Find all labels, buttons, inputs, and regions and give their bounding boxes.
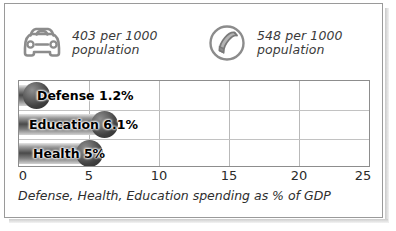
- bar-label-education: Education 6.1%: [29, 115, 138, 134]
- telephone-handset-icon: [203, 20, 251, 66]
- spending-bar-chart: Defense 1.2% Education 6.1% Health 5% 0 …: [18, 80, 370, 213]
- statistics-row: 403 per 1000 population 548 per 1000 pop…: [5, 14, 382, 72]
- table-row: Education 6.1%: [19, 110, 369, 139]
- stat-value-vehicles: 403 per 1000 population: [72, 29, 158, 57]
- stat-item-telephones: 548 per 1000 population: [200, 14, 382, 72]
- x-tick-25: 25: [355, 168, 372, 183]
- stat-value-telephones: 548 per 1000 population: [257, 29, 343, 57]
- x-axis: 0 5 10 15 20 25: [18, 168, 370, 186]
- table-row: Defense 1.2%: [19, 81, 369, 110]
- car-icon: [18, 20, 66, 66]
- x-tick-20: 20: [291, 168, 308, 183]
- x-tick-15: 15: [221, 168, 238, 183]
- bar-label-defense: Defense 1.2%: [37, 86, 134, 105]
- x-tick-0: 0: [19, 168, 27, 183]
- stat-item-vehicles: 403 per 1000 population: [5, 14, 200, 72]
- info-card: 403 per 1000 population 548 per 1000 pop…: [4, 3, 383, 218]
- bar-label-health: Health 5%: [33, 144, 105, 163]
- x-tick-10: 10: [151, 168, 168, 183]
- card-shadow-right: [385, 8, 389, 223]
- x-tick-5: 5: [85, 168, 93, 183]
- card-shadow-bottom: [9, 219, 388, 223]
- table-row: Health 5%: [19, 139, 369, 167]
- chart-caption: Defense, Health, Education spending as %…: [18, 188, 331, 203]
- chart-plot-area: Defense 1.2% Education 6.1% Health 5%: [18, 80, 370, 167]
